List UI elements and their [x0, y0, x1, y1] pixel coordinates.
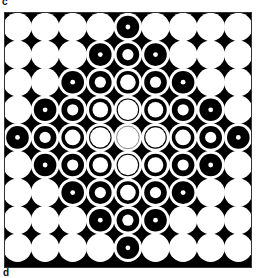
grid-cell	[86, 68, 114, 96]
grid-cell	[224, 68, 252, 96]
grid-cell	[86, 206, 114, 234]
grid-cell	[3, 151, 31, 179]
grid-cell	[86, 96, 114, 124]
grid-cell	[197, 151, 225, 179]
white-disk	[58, 13, 86, 41]
grid-cell	[58, 40, 86, 68]
grid-cell	[224, 13, 252, 41]
white-disk	[224, 13, 252, 41]
grid-cell	[169, 151, 197, 179]
inner-white-disk	[70, 80, 75, 85]
inner-white-disk	[148, 157, 164, 173]
white-disk	[224, 68, 252, 96]
white-disk	[224, 178, 252, 206]
inner-white-disk	[208, 163, 213, 168]
inner-white-disk	[153, 218, 158, 223]
inner-white-disk	[175, 130, 191, 146]
grid-cell	[197, 234, 225, 262]
grid-cell	[58, 123, 86, 151]
grid-cell	[141, 234, 169, 262]
grid-cell	[3, 68, 31, 96]
grid-cell	[3, 40, 31, 68]
grid-cell	[31, 123, 59, 151]
panel-label-d: d	[3, 268, 9, 278]
grid-cell	[169, 206, 197, 234]
inner-white-disk	[40, 132, 51, 143]
white-disk	[3, 234, 31, 262]
white-disk	[197, 206, 225, 234]
grid-cell	[224, 206, 252, 234]
grid-cell	[58, 68, 86, 96]
grid-cell	[58, 151, 86, 179]
inner-white-disk	[148, 102, 164, 118]
inner-white-disk	[178, 104, 189, 115]
grid-cell	[141, 123, 169, 151]
inner-white-disk	[205, 132, 216, 143]
inner-white-disk	[126, 25, 131, 30]
grid-cell	[114, 96, 142, 124]
inner-white-disk	[181, 80, 186, 85]
grid-cell	[58, 96, 86, 124]
grid-cell	[197, 13, 225, 41]
white-disk	[169, 13, 197, 41]
grid-cell	[31, 13, 59, 41]
white-disk	[169, 234, 197, 262]
grid-cell	[86, 123, 114, 151]
inner-white-disk	[95, 77, 106, 88]
white-disk	[224, 151, 252, 179]
grid-cell	[31, 206, 59, 234]
white-disk	[3, 206, 31, 234]
grid-cell	[31, 178, 59, 206]
white-disk	[31, 40, 59, 68]
inner-white-disk	[120, 185, 136, 201]
white-disk	[114, 123, 142, 151]
grid-cell	[141, 40, 169, 68]
inner-white-disk	[118, 155, 138, 175]
grid-cell	[3, 178, 31, 206]
grid-cell	[197, 123, 225, 151]
inner-white-disk	[67, 159, 78, 170]
white-disk	[3, 151, 31, 179]
grid-cell	[224, 234, 252, 262]
white-disk	[58, 40, 86, 68]
grid-cell	[86, 13, 114, 41]
inner-white-disk	[126, 245, 131, 250]
white-disk	[86, 13, 114, 41]
grid-cell	[141, 68, 169, 96]
grid-cell	[58, 234, 86, 262]
grid-cell	[31, 68, 59, 96]
white-disk	[3, 13, 31, 41]
inner-white-disk	[98, 218, 103, 223]
grid-cell	[86, 178, 114, 206]
grid-cell	[3, 13, 31, 41]
grid-cell	[169, 234, 197, 262]
inner-white-disk	[236, 135, 241, 140]
grid-cell	[3, 234, 31, 262]
grid-cell	[3, 96, 31, 124]
grid-cell	[31, 151, 59, 179]
grid-cell	[114, 40, 142, 68]
inner-white-disk	[93, 157, 109, 173]
white-disk	[197, 178, 225, 206]
inner-white-disk	[67, 104, 78, 115]
white-disk	[141, 13, 169, 41]
grid-cell	[114, 13, 142, 41]
inner-white-disk	[208, 107, 213, 112]
white-disk	[31, 178, 59, 206]
inner-white-disk	[120, 74, 136, 90]
white-disk	[31, 13, 59, 41]
grid-cell	[114, 178, 142, 206]
grid-cell	[31, 234, 59, 262]
white-disk	[224, 206, 252, 234]
grid-cell	[114, 234, 142, 262]
white-disk	[169, 40, 197, 68]
grid-cell	[114, 123, 142, 151]
white-disk	[31, 234, 59, 262]
inner-white-disk	[122, 215, 133, 226]
grid-cell	[169, 68, 197, 96]
grid-cell	[197, 96, 225, 124]
cell-grid	[3, 13, 252, 262]
white-disk	[3, 68, 31, 96]
white-disk	[58, 206, 86, 234]
